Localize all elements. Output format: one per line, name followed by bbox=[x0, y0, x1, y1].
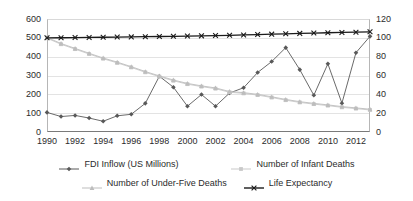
series-layer bbox=[47, 19, 370, 132]
data-point-marker bbox=[45, 110, 50, 115]
y-axis-left-tick-label: 200 bbox=[11, 90, 41, 99]
legend-row: FDI Inflow (US Millions)Number of Infant… bbox=[0, 155, 413, 174]
x-axis-tick-label: 2012 bbox=[339, 137, 373, 146]
y-axis-left-tick-label: 600 bbox=[11, 15, 41, 24]
data-point-marker bbox=[101, 119, 106, 124]
legend-item[interactable]: Number of Infant Deaths bbox=[230, 160, 354, 170]
legend-label: FDI Inflow (US Millions) bbox=[84, 160, 178, 169]
plot-area bbox=[47, 19, 370, 132]
data-point-marker bbox=[73, 113, 78, 118]
chart-legend: FDI Inflow (US Millions)Number of Infant… bbox=[0, 155, 413, 193]
series-line bbox=[47, 32, 370, 38]
y-axis-right-tick-label: 60 bbox=[376, 71, 406, 80]
legend-item[interactable]: Number of Under-Five Deaths bbox=[81, 179, 227, 189]
y-axis-left-tick-label: 100 bbox=[11, 109, 41, 118]
legend-item[interactable]: Life Expectancy bbox=[243, 179, 333, 189]
legend-marker-icon bbox=[58, 160, 80, 170]
data-point-marker bbox=[87, 116, 92, 121]
legend-label: Number of Under-Five Deaths bbox=[107, 179, 227, 188]
series-line bbox=[47, 37, 370, 109]
legend-item[interactable]: FDI Inflow (US Millions) bbox=[58, 160, 178, 170]
legend-label: Life Expectancy bbox=[269, 179, 333, 188]
y-axis-right-tick-label: 80 bbox=[376, 52, 406, 61]
y-axis-right-tick-label: 100 bbox=[376, 33, 406, 42]
data-point-marker bbox=[115, 114, 120, 119]
y-axis-right-tick-label: 40 bbox=[376, 90, 406, 99]
y-axis-right-tick-label: 0 bbox=[376, 128, 406, 137]
data-point-marker bbox=[312, 93, 317, 98]
data-point-marker bbox=[297, 67, 302, 72]
data-point-marker bbox=[59, 114, 64, 119]
y-axis-right-tick-label: 120 bbox=[376, 15, 406, 24]
data-point-marker bbox=[326, 62, 331, 67]
series-1 bbox=[45, 34, 373, 124]
series-line bbox=[47, 38, 370, 110]
y-axis-right-tick-label: 20 bbox=[376, 109, 406, 118]
legend-marker-icon bbox=[81, 179, 103, 189]
legend-marker-icon bbox=[230, 160, 252, 170]
y-axis-left-tick-label: 400 bbox=[11, 52, 41, 61]
y-axis-left-tick-label: 300 bbox=[11, 71, 41, 80]
line-chart: 0100200300400500600 020406080100120 1990… bbox=[0, 0, 413, 201]
legend-marker-icon bbox=[243, 179, 265, 189]
series-4 bbox=[45, 29, 373, 40]
legend-label: Number of Infant Deaths bbox=[256, 160, 354, 169]
legend-row: Number of Under-Five DeathsLife Expectan… bbox=[0, 174, 413, 193]
series-line bbox=[47, 36, 370, 121]
y-axis-left-tick-label: 500 bbox=[11, 33, 41, 42]
